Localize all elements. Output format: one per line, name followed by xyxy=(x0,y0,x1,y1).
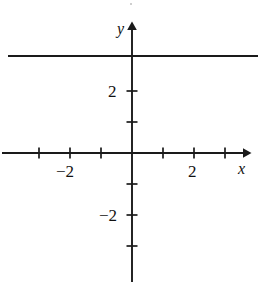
y-axis-tick-label-neg2: −2 xyxy=(99,207,117,224)
coordinate-plane-figure: 2 −2 −2 2 y x xyxy=(0,0,265,286)
x-axis-tick-label-2: 2 xyxy=(188,163,197,180)
y-axis-arrow-icon xyxy=(127,22,137,31)
x-axis-tick-label-neg2: −2 xyxy=(56,163,74,180)
x-axis-arrow-icon xyxy=(243,148,252,158)
y-axis-tick-label-2: 2 xyxy=(108,83,117,100)
x-axis-label: x xyxy=(238,161,245,177)
scan-artifact-speck xyxy=(130,3,132,5)
y-axis-label: y xyxy=(117,21,124,37)
plot-canvas xyxy=(0,0,265,286)
